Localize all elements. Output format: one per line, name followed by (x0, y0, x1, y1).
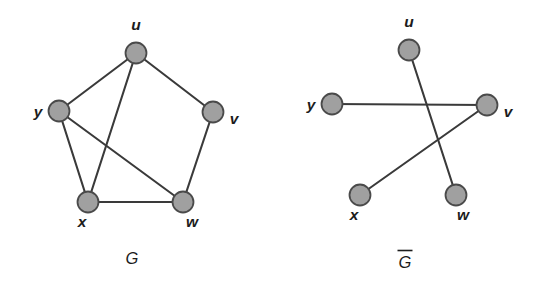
edge-group (59, 53, 213, 202)
vertex-label-y: y (33, 103, 44, 120)
graph-caption-group: G (126, 249, 139, 267)
graphs-layer: uyvxwGuyvxwG (33, 13, 514, 271)
vertex-w (446, 185, 467, 206)
vertex-y (322, 94, 343, 115)
edge-group (332, 50, 487, 195)
graph-g: uyvxwG (33, 16, 240, 267)
graph-figure: uyvxwGuyvxwG (0, 0, 539, 292)
vertex-label-u: u (131, 16, 141, 33)
graph-edge-y-w (59, 111, 183, 202)
vertex-label-x: x (349, 206, 360, 223)
graph-edge-y-x (59, 111, 88, 202)
vertex-label-v: v (504, 103, 514, 120)
graph-caption-graph-g: G (126, 249, 139, 267)
vertex-label-x: x (77, 213, 88, 230)
vertex-u (399, 40, 420, 61)
graph-edge-u-v (136, 53, 213, 112)
vertex-w (173, 192, 194, 213)
graph-edge-u-x (88, 53, 136, 202)
vertex-label-w: w (457, 206, 470, 223)
vertex-label-v: v (230, 110, 240, 127)
graph-edge-y-v (332, 104, 487, 105)
vertex-label-w: w (186, 213, 199, 230)
vertex-x (350, 185, 371, 206)
vertex-group: uyvxw (306, 13, 514, 223)
vertex-x (78, 192, 99, 213)
figure-canvas: uyvxwGuyvxwG (0, 0, 539, 292)
vertex-v (477, 95, 498, 116)
graph-caption-graph-g-complement: G (399, 253, 412, 271)
graph-edge-x-v (360, 105, 487, 195)
graph-g-complement: uyvxwG (306, 13, 514, 271)
vertex-u (126, 43, 147, 64)
vertex-label-u: u (404, 13, 414, 30)
graph-edge-v-w (183, 112, 213, 202)
vertex-label-y: y (306, 96, 317, 113)
graph-caption-group: G (398, 251, 413, 272)
graph-edge-u-w (409, 50, 456, 195)
vertex-v (203, 102, 224, 123)
vertex-y (49, 101, 70, 122)
graph-edge-u-y (59, 53, 136, 111)
